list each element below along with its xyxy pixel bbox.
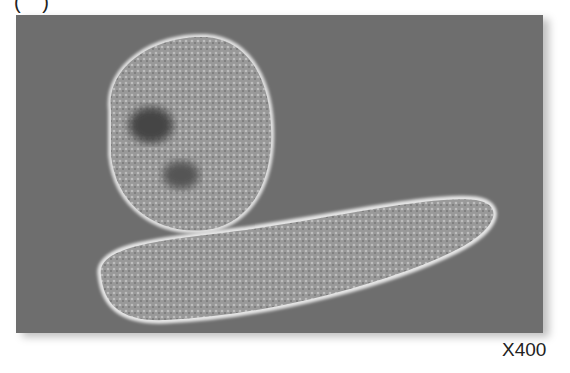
magnification-label: X400 bbox=[502, 339, 546, 361]
panel-label: ( ) bbox=[14, 0, 57, 14]
round-cell bbox=[111, 37, 272, 231]
micrograph-image bbox=[16, 15, 543, 333]
micrograph-illustration bbox=[16, 15, 543, 333]
